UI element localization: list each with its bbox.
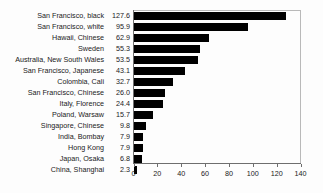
category-label: Australia, New South Wales xyxy=(15,54,104,65)
bar-track xyxy=(134,43,301,54)
value-label: 127.6 xyxy=(104,10,130,21)
value-label: 26.0 xyxy=(104,87,130,98)
chart-row: San Francisco, white95.9 xyxy=(0,21,323,32)
value-label: 7.9 xyxy=(104,131,130,142)
category-label: San Francisco, Chinese xyxy=(28,87,104,98)
bar xyxy=(134,122,146,130)
category-label: India, Bombay xyxy=(58,131,104,142)
chart-row: Poland, Warsaw15.7 xyxy=(0,109,323,120)
bar xyxy=(134,12,286,20)
bar-track xyxy=(134,131,301,142)
bar xyxy=(134,89,165,97)
value-label: 32.7 xyxy=(104,76,130,87)
bar xyxy=(134,133,143,141)
chart-row: Colombia, Cali32.7 xyxy=(0,76,323,87)
plot-frame-right xyxy=(300,10,301,163)
category-label: Sweden xyxy=(78,43,104,54)
bar-track xyxy=(134,32,301,43)
value-label: 15.7 xyxy=(104,109,130,120)
chart-row: San Francisco, black127.6 xyxy=(0,10,323,21)
x-tick xyxy=(205,164,206,167)
value-label: 43.1 xyxy=(104,65,130,76)
category-label: San Francisco, black xyxy=(37,10,104,21)
bar xyxy=(134,34,209,42)
chart-rows: San Francisco, black127.6San Francisco, … xyxy=(0,10,323,175)
chart-row: Italy, Florence24.4 xyxy=(0,98,323,109)
category-label: Poland, Warsaw xyxy=(52,109,104,120)
x-tick xyxy=(253,164,254,167)
bar-track xyxy=(134,54,301,65)
bar-track xyxy=(134,120,301,131)
y-axis-line xyxy=(133,10,134,163)
bar-track xyxy=(134,142,301,153)
x-tick xyxy=(277,164,278,167)
bar xyxy=(134,100,163,108)
x-tick-label: 0 xyxy=(132,169,136,178)
category-label: San Francisco, Japanese xyxy=(23,65,104,76)
value-label: 9.8 xyxy=(104,120,130,131)
bar xyxy=(134,78,173,86)
bar xyxy=(134,155,142,163)
x-tick xyxy=(134,164,135,167)
x-tick-label: 40 xyxy=(177,169,185,178)
category-label: Japan, Osaka xyxy=(60,153,104,164)
value-label: 53.5 xyxy=(104,54,130,65)
x-tick-label: 120 xyxy=(271,169,283,178)
chart-row: Hawaii, Chinese62.9 xyxy=(0,32,323,43)
bar xyxy=(134,67,185,75)
chart-row: Hong Kong7.9 xyxy=(0,142,323,153)
bar-track xyxy=(134,65,301,76)
chart-row: San Francisco, Japanese43.1 xyxy=(0,65,323,76)
bar xyxy=(134,144,143,152)
x-tick-label: 80 xyxy=(225,169,233,178)
value-label: 24.4 xyxy=(104,98,130,109)
plot-frame-top xyxy=(134,10,301,11)
bar-track xyxy=(134,98,301,109)
value-label: 6.8 xyxy=(104,153,130,164)
x-tick xyxy=(301,164,302,167)
category-label: Colombia, Cali xyxy=(57,76,104,87)
value-label: 95.9 xyxy=(104,21,130,32)
chart-row: Singapore, Chinese9.8 xyxy=(0,120,323,131)
category-label: San Francisco, white xyxy=(37,21,104,32)
x-tick xyxy=(157,164,158,167)
bar xyxy=(134,23,248,31)
chart-row: Australia, New South Wales53.5 xyxy=(0,54,323,65)
x-tick-label: 100 xyxy=(247,169,259,178)
x-tick-label: 20 xyxy=(153,169,161,178)
chart-row: India, Bombay7.9 xyxy=(0,131,323,142)
value-label: 62.9 xyxy=(104,32,130,43)
x-tick xyxy=(229,164,230,167)
bar xyxy=(134,56,198,64)
value-label: 55.3 xyxy=(104,43,130,54)
bar-chart: San Francisco, black127.6San Francisco, … xyxy=(0,0,323,193)
chart-row: Sweden55.3 xyxy=(0,43,323,54)
category-label: Italy, Florence xyxy=(59,98,104,109)
bar xyxy=(134,45,200,53)
bar-track xyxy=(134,10,301,21)
category-label: Singapore, Chinese xyxy=(41,120,104,131)
bar xyxy=(134,111,153,119)
x-tick xyxy=(181,164,182,167)
bar-track xyxy=(134,21,301,32)
value-label: 7.9 xyxy=(104,142,130,153)
category-label: Hong Kong xyxy=(68,142,104,153)
x-tick-label: 60 xyxy=(201,169,209,178)
bar-track xyxy=(134,76,301,87)
bar-track xyxy=(134,109,301,120)
chart-row: San Francisco, Chinese26.0 xyxy=(0,87,323,98)
category-label: China, Shanghai xyxy=(51,164,104,175)
x-tick-label: 140 xyxy=(295,169,307,178)
bar-track xyxy=(134,87,301,98)
value-label: 2.3 xyxy=(104,164,130,175)
category-label: Hawaii, Chinese xyxy=(52,32,104,43)
